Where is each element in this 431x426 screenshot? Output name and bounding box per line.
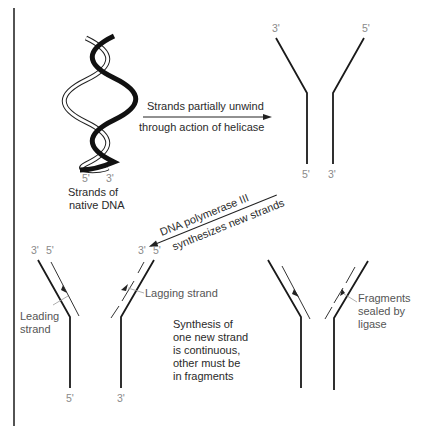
double-helix-icon bbox=[64, 36, 136, 171]
p3-bottom-left-label: 5' bbox=[66, 392, 74, 404]
fork-bottom-right-label: 3' bbox=[328, 168, 336, 180]
helix-5prime-label: 5' bbox=[82, 172, 90, 184]
lagging-label: Lagging strand bbox=[145, 287, 218, 299]
fork-bottom-left-label: 5' bbox=[302, 168, 310, 180]
native-dna-caption-1: Strands of bbox=[68, 186, 119, 198]
p3-top-right-5prime: 5' bbox=[153, 244, 161, 256]
p3-top-left-3prime: 3' bbox=[31, 244, 39, 256]
svg-text:in fragments: in fragments bbox=[173, 370, 234, 382]
svg-text:other must be: other must be bbox=[173, 357, 240, 369]
leading-pointer bbox=[53, 296, 68, 305]
fork-top-right-label: 5' bbox=[362, 22, 370, 34]
parent-strand-left bbox=[276, 38, 307, 164]
fork-top-left-label: 3' bbox=[272, 22, 280, 34]
p3-bottom-right-label: 3' bbox=[117, 392, 125, 404]
helix-3prime-label: 3' bbox=[106, 172, 114, 184]
synthesis-note: Synthesis of one new strand is continuou… bbox=[173, 318, 248, 382]
lagging-fragment bbox=[111, 306, 119, 318]
ligase-label-3: ligase bbox=[358, 318, 387, 330]
lagging-arrow-icon bbox=[121, 284, 128, 291]
p3-top-right-3prime: 3' bbox=[138, 244, 146, 256]
p4-arrow-icon bbox=[292, 289, 299, 297]
leading-label-1: Leading bbox=[20, 310, 59, 322]
p3-parent-right bbox=[121, 260, 154, 388]
p4-fragment bbox=[325, 307, 332, 319]
parent-strand-right bbox=[333, 38, 364, 164]
p3-top-left-5prime: 5' bbox=[46, 244, 54, 256]
arrow1-label-top: Strands partially unwind bbox=[147, 100, 264, 112]
svg-text:is continuous,: is continuous, bbox=[173, 344, 240, 356]
ligase-label-2: sealed by bbox=[358, 305, 406, 317]
leading-label-2: strand bbox=[20, 323, 51, 335]
dna-replication-diagram: 5' 3' Strands of native DNA Strands part… bbox=[0, 0, 431, 426]
ligase-label-1: Fragments bbox=[358, 292, 411, 304]
native-dna-caption-2: native DNA bbox=[69, 199, 125, 211]
svg-text:Synthesis of: Synthesis of bbox=[173, 318, 234, 330]
lagging-fragment bbox=[138, 262, 144, 273]
svg-text:one new strand: one new strand bbox=[173, 331, 248, 343]
arrow1-label-bottom: through action of helicase bbox=[139, 121, 264, 133]
polymerase-arrow bbox=[151, 195, 277, 246]
arrow-head-icon bbox=[263, 114, 272, 120]
p4-parent-left bbox=[268, 260, 301, 388]
p4-fragment bbox=[346, 267, 355, 283]
